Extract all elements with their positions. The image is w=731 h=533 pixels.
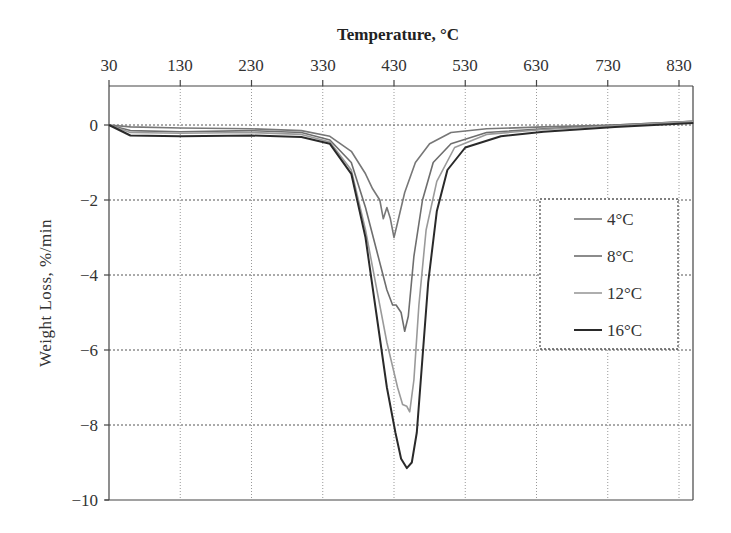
y-tick-label: −4 — [80, 266, 99, 285]
chart-canvas: Temperature, °C 30 130 230 330 430 530 6… — [0, 0, 731, 533]
x-tick-label: 230 — [238, 56, 264, 75]
legend-label-8c: 8°C — [607, 247, 634, 266]
y-tick-label: −8 — [80, 416, 98, 435]
y-tick-label: −2 — [80, 191, 98, 210]
legend-label-16c: 16°C — [607, 321, 642, 340]
legend-label-12c: 12°C — [607, 284, 642, 303]
x-tick-label: 630 — [523, 56, 549, 75]
x-tick-labels: 30 130 230 330 430 530 630 730 830 — [101, 56, 692, 75]
x-tick-label: 130 — [167, 56, 193, 75]
y-tick-labels: 0 −2 −4 −6 −8 −10 — [71, 116, 98, 510]
y-tick-label: −10 — [71, 491, 98, 510]
y-tick-label: 0 — [90, 116, 99, 135]
y-tick-label: −6 — [80, 341, 98, 360]
x-tick-label: 430 — [381, 56, 407, 75]
x-tick-label: 30 — [101, 56, 118, 75]
legend-label-4c: 4°C — [607, 210, 634, 229]
x-tick-label: 830 — [666, 56, 692, 75]
y-axis-title: Weight Loss, %/min — [36, 219, 55, 367]
x-tick-label: 730 — [595, 56, 621, 75]
x-tick-label: 530 — [452, 56, 478, 75]
legend: 4°C 8°C 12°C 16°C — [540, 199, 678, 349]
x-axis-title: Temperature, °C — [337, 25, 459, 44]
x-tick-label: 330 — [310, 56, 336, 75]
